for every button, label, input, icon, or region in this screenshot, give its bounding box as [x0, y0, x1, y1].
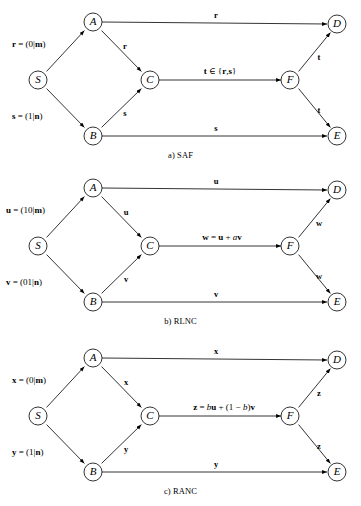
source-label-u: u = (10|m) — [6, 205, 45, 215]
node-S — [29, 71, 47, 89]
node-A — [84, 179, 102, 197]
edge-A-D — [102, 358, 327, 360]
node-F — [281, 237, 299, 255]
edge-label-B-C: s — [123, 109, 126, 118]
edge-label-F-E: w — [316, 272, 322, 281]
node-B — [84, 463, 102, 481]
source-label-r: r = (0|m) — [12, 39, 45, 49]
node-B — [84, 293, 102, 311]
panel-rlnc: S A B C F D E u = (10|m) v = (01|n) u u … — [0, 166, 361, 335]
source-label-y: y = (1|n) — [12, 447, 43, 457]
node-D — [328, 15, 346, 33]
edge-label-B-E: y — [214, 460, 218, 469]
figure-page: S A B C F D E r = (0|m) s = (1|n) r r s … — [0, 0, 361, 506]
edge-A-C — [102, 197, 142, 238]
edge-label-A-C: x — [124, 378, 128, 387]
edge-B-C — [102, 425, 142, 464]
edge-S-B — [47, 89, 85, 128]
edge-label-F-E: t — [318, 106, 321, 115]
edge-label-F-D: t — [318, 53, 321, 62]
edge-A-C — [102, 367, 142, 408]
edge-S-A — [47, 197, 85, 238]
edge-B-C — [102, 255, 142, 294]
diagram-saf — [0, 0, 361, 150]
edge-S-B — [47, 255, 85, 294]
node-C — [141, 407, 159, 425]
edge-A-D — [102, 188, 327, 190]
edge-label-A-D: r — [214, 11, 218, 20]
edge-label-C-F: w = u + av — [202, 233, 242, 242]
edge-label-F-D: w — [316, 219, 322, 228]
node-S — [29, 237, 47, 255]
edge-label-A-C: u — [124, 208, 129, 217]
node-A — [84, 13, 102, 31]
source-label-v: v = (01|n) — [6, 277, 42, 287]
edge-label-B-E: s — [214, 124, 217, 133]
node-E — [328, 293, 346, 311]
node-S — [29, 407, 47, 425]
edge-F-D — [299, 199, 331, 238]
edge-S-A — [47, 367, 85, 408]
edge-label-B-C: y — [124, 445, 128, 454]
edge-label-A-C: r — [123, 42, 127, 51]
edge-label-A-D: u — [214, 177, 219, 186]
caption-rlnc: b) RLNC — [0, 316, 361, 326]
edge-A-D — [102, 22, 327, 24]
edge-F-D — [299, 33, 331, 72]
edge-label-A-D: x — [214, 347, 218, 356]
edge-S-A — [47, 31, 85, 72]
node-B — [84, 127, 102, 145]
diagram-rlnc — [0, 166, 361, 316]
edge-A-C — [102, 31, 142, 72]
edge-B-C — [102, 89, 142, 128]
node-E — [328, 127, 346, 145]
edge-label-C-F: t ∈ {r,s} — [204, 67, 237, 76]
caption-ranc: c) RANC — [0, 486, 361, 496]
node-F — [281, 71, 299, 89]
node-F — [281, 407, 299, 425]
diagram-ranc — [0, 336, 361, 486]
edge-label-F-D: z — [317, 389, 321, 398]
edge-F-E — [299, 255, 331, 294]
edge-F-E — [299, 425, 331, 464]
node-A — [84, 349, 102, 367]
edge-label-C-F: z = bu + (1 − b)v — [193, 403, 255, 412]
edge-F-D — [299, 369, 331, 408]
panel-saf: S A B C F D E r = (0|m) s = (1|n) r r s … — [0, 0, 361, 169]
edge-F-E — [299, 89, 331, 128]
node-E — [328, 463, 346, 481]
edge-label-B-C: v — [124, 275, 128, 284]
node-C — [141, 71, 159, 89]
source-label-x: x = (0|m) — [12, 375, 46, 385]
source-label-s: s = (1|n) — [12, 111, 42, 121]
node-D — [328, 181, 346, 199]
node-D — [328, 351, 346, 369]
panel-ranc: S A B C F D E x = (0|m) y = (1|n) x x y … — [0, 336, 361, 505]
edge-label-B-E: v — [214, 290, 218, 299]
node-C — [141, 237, 159, 255]
edge-label-F-E: z — [317, 442, 321, 451]
edge-S-B — [47, 425, 85, 464]
caption-saf: a) SAF — [0, 150, 361, 160]
